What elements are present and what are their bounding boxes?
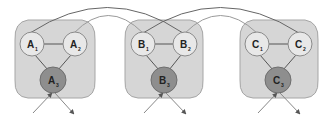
svg-text:B: B bbox=[138, 39, 145, 50]
svg-text:3: 3 bbox=[56, 82, 59, 88]
svg-text:3: 3 bbox=[281, 82, 284, 88]
svg-text:1: 1 bbox=[260, 46, 263, 52]
node-b3: B 3 bbox=[151, 67, 177, 93]
node-b1: B 1 bbox=[131, 32, 155, 56]
svg-text:A: A bbox=[70, 39, 77, 50]
svg-text:B: B bbox=[180, 39, 187, 50]
node-c1: C 1 bbox=[245, 32, 269, 56]
svg-text:B: B bbox=[159, 75, 166, 86]
node-a3: A 3 bbox=[40, 67, 66, 93]
node-a2: A 2 bbox=[63, 32, 87, 56]
svg-text:C: C bbox=[252, 39, 259, 50]
svg-text:2: 2 bbox=[303, 46, 306, 52]
svg-text:1: 1 bbox=[35, 46, 38, 52]
node-c3: C 3 bbox=[265, 67, 291, 93]
node-b2: B 2 bbox=[173, 32, 197, 56]
svg-text:C: C bbox=[273, 75, 280, 86]
svg-text:2: 2 bbox=[188, 46, 191, 52]
svg-text:2: 2 bbox=[78, 46, 81, 52]
svg-text:C: C bbox=[295, 39, 302, 50]
svg-text:3: 3 bbox=[167, 82, 170, 88]
node-c2: C 2 bbox=[288, 32, 312, 56]
svg-text:A: A bbox=[48, 75, 55, 86]
svg-text:1: 1 bbox=[146, 46, 149, 52]
node-a1: A 1 bbox=[20, 32, 44, 56]
svg-text:A: A bbox=[27, 39, 34, 50]
cluster-diagram: A 1 A 2 A 3 B 1 B 2 B 3 C 1 C 2 C 3 bbox=[0, 0, 331, 121]
